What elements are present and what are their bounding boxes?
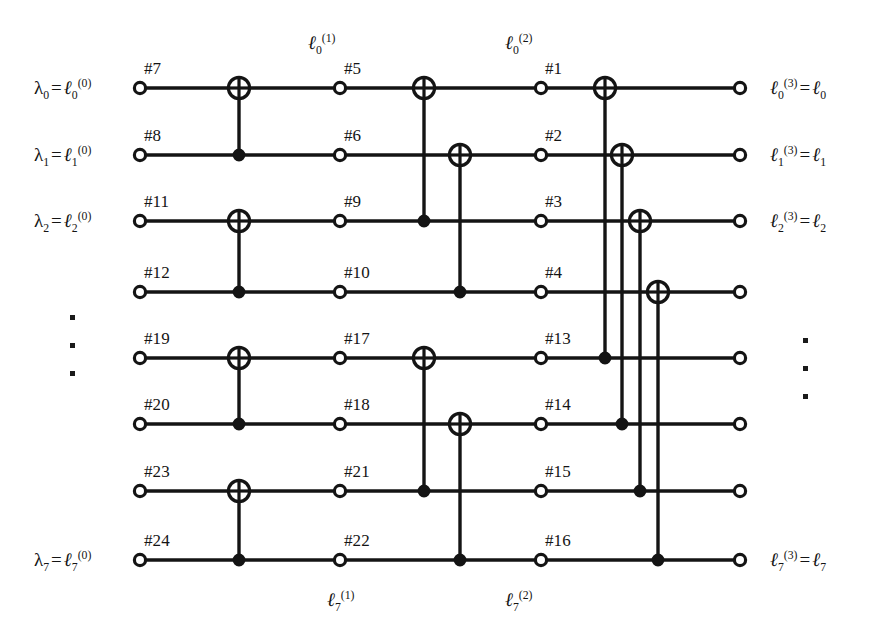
circuit-figure: λ0=ℓ0(0) λ1=ℓ1(0) λ2=ℓ2(0) λ7=ℓ7(0) ℓ0(3… [0, 0, 876, 644]
node-label-c1-wire-1: #8 [144, 127, 161, 144]
node-label-c3-wire-5: #14 [545, 396, 571, 413]
node-mid1-wire-4-ring [334, 352, 345, 363]
node-mid2-wire-0-ring [535, 82, 546, 93]
node-label-c2-wire-4: #17 [344, 330, 370, 347]
ellipsis-dot [70, 371, 75, 376]
output-label-wire-1: ℓ1(3)=ℓ1 [770, 145, 826, 164]
node-output-wire-5-ring [734, 418, 745, 429]
node-mid1-wire-5 [334, 418, 345, 429]
node-mid2-wire-6 [535, 485, 546, 496]
control-dot [600, 353, 611, 364]
control-dot [419, 486, 430, 497]
node-input-wire-0-ring [134, 82, 145, 93]
node-label-c1-wire-2: #11 [144, 193, 169, 210]
node-label-c2-wire-7: #22 [344, 532, 370, 549]
node-mid2-wire-6-ring [535, 485, 546, 496]
node-mid1-wire-7-ring [334, 554, 345, 565]
right-vertical-ellipsis [803, 338, 808, 422]
cnot-gate-s1-t6-c7 [228, 480, 249, 565]
node-mid2-wire-5 [535, 418, 546, 429]
node-output-wire-2 [734, 215, 745, 226]
node-mid2-wire-3-ring [535, 286, 546, 297]
node-mid2-wire-3 [535, 286, 546, 297]
input-label-wire-2: λ2=ℓ2(0) [34, 211, 91, 230]
node-input-wire-3 [134, 286, 145, 297]
node-mid1-wire-3 [334, 286, 345, 297]
control-dot [617, 419, 628, 430]
node-mid1-wire-6-ring [334, 485, 345, 496]
control-dot [653, 555, 664, 566]
node-label-c3-wire-3: #4 [545, 264, 562, 281]
node-label-c1-wire-0: #7 [144, 60, 161, 77]
ellipsis-dot [70, 315, 75, 320]
node-label-c3-wire-7: #16 [545, 532, 571, 549]
node-mid2-wire-4-ring [535, 352, 546, 363]
node-input-wire-6 [134, 485, 145, 496]
control-dot [635, 486, 646, 497]
node-input-wire-0 [134, 82, 145, 93]
node-output-wire-7-ring [734, 554, 745, 565]
node-mid2-wire-7-ring [535, 554, 546, 565]
node-label-c2-wire-5: #18 [344, 396, 370, 413]
node-output-wire-0-ring [734, 82, 745, 93]
node-input-wire-3-ring [134, 286, 145, 297]
node-input-wire-4-ring [134, 352, 145, 363]
node-input-wire-2-ring [134, 215, 145, 226]
control-dot [234, 287, 245, 298]
node-output-wire-6-ring [734, 485, 745, 496]
node-mid1-wire-2 [334, 215, 345, 226]
ellipsis-dot [803, 338, 808, 343]
node-mid2-wire-2-ring [535, 215, 546, 226]
node-mid1-wire-0-ring [334, 82, 345, 93]
node-mid1-wire-0 [334, 82, 345, 93]
node-label-c1-wire-5: #20 [144, 396, 170, 413]
node-output-wire-3-ring [734, 286, 745, 297]
output-label-wire-7: ℓ7(3)=ℓ7 [770, 550, 826, 569]
node-label-c2-wire-1: #6 [344, 127, 361, 144]
circuit-canvas [0, 0, 876, 644]
node-mid1-wire-7 [334, 554, 345, 565]
node-label-c3-wire-1: #2 [545, 127, 562, 144]
node-mid1-wire-6 [334, 485, 345, 496]
control-dot [455, 555, 466, 566]
node-input-wire-4 [134, 352, 145, 363]
node-output-wire-6 [734, 485, 745, 496]
cnot-gate-s1-t2-c3 [228, 210, 249, 297]
control-dot [455, 287, 466, 298]
node-input-wire-7 [134, 554, 145, 565]
ellipsis-dot [70, 343, 75, 348]
node-label-c3-wire-6: #15 [545, 463, 571, 480]
node-mid2-wire-1 [535, 149, 546, 160]
stage-label-bottom-2: ℓ7(2) [505, 590, 533, 609]
output-label-wire-0: ℓ0(3)=ℓ0 [770, 78, 826, 97]
stage-label-top-2: ℓ0(2) [505, 33, 533, 52]
node-label-c2-wire-3: #10 [344, 264, 370, 281]
node-input-wire-1 [134, 149, 145, 160]
control-dot [419, 216, 430, 227]
node-mid1-wire-1-ring [334, 149, 345, 160]
node-input-wire-6-ring [134, 485, 145, 496]
node-mid2-wire-2 [535, 215, 546, 226]
ellipsis-dot [803, 394, 808, 399]
node-label-c1-wire-7: #24 [144, 532, 170, 549]
node-label-c3-wire-2: #3 [545, 193, 562, 210]
node-mid1-wire-3-ring [334, 286, 345, 297]
input-label-wire-0: λ0=ℓ0(0) [34, 78, 91, 97]
node-label-c1-wire-3: #12 [144, 264, 170, 281]
node-label-c1-wire-6: #23 [144, 463, 170, 480]
output-label-wire-2: ℓ2(3)=ℓ2 [770, 211, 826, 230]
input-label-wire-1: λ1=ℓ1(0) [34, 145, 91, 164]
node-mid1-wire-5-ring [334, 418, 345, 429]
node-output-wire-4-ring [734, 352, 745, 363]
cnot-gate-s2-t0-c2 [413, 77, 434, 226]
cnot-gate-s1-t4-c5 [228, 347, 249, 429]
node-mid1-wire-4 [334, 352, 345, 363]
node-input-wire-7-ring [134, 554, 145, 565]
node-mid2-wire-0 [535, 82, 546, 93]
node-label-c2-wire-2: #9 [344, 193, 361, 210]
cnot-gate-s3-t2-c6 [629, 210, 650, 496]
node-label-c3-wire-4: #13 [545, 330, 571, 347]
node-mid2-wire-5-ring [535, 418, 546, 429]
stage-label-bottom-1: ℓ7(1) [327, 590, 355, 609]
input-label-wire-7: λ7=ℓ7(0) [34, 550, 91, 569]
